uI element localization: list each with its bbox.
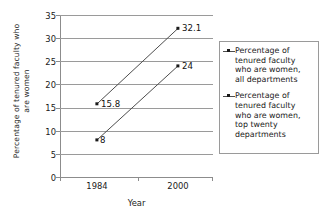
data-point-top-twenty-1984 [95,138,98,141]
legend-label-line-3: who are women, [235,65,300,75]
x-axis-title: Year [60,199,213,208]
legend-label-line-2: tenured faculty [235,101,300,111]
point-label-all-departments-2000: 32.1 [182,24,201,33]
legend-marker-icon [223,92,235,101]
point-label-top-twenty-2000: 24 [182,62,193,71]
y-tick-label-10: 10 [30,128,56,136]
x-tick-label-2000: 2000 [153,182,203,190]
legend-label-line-4: all departments [235,75,300,85]
legend-marker-icon [223,47,235,56]
legend-entry-all-departments[interactable]: Percentage of tenured faculty who are wo… [223,46,315,84]
y-tick-label-25: 25 [30,58,56,66]
legend-label-line-1: Percentage of [235,91,300,101]
y-tick-label-30: 30 [30,35,56,43]
y-axis-title-line-2: are women [22,24,32,158]
data-point-top-twenty-2000 [176,64,179,67]
legend-label-line-4: top twenty [235,120,300,130]
series-plot [60,15,213,177]
y-tick-label-5: 5 [30,151,56,159]
point-label-top-twenty-1984: 8 [100,136,105,145]
series-line-all-departments [97,28,178,104]
chart-legend: Percentage of tenured faculty who are wo… [219,41,319,154]
y-tick-label-15: 15 [30,104,56,112]
line-chart: Percentage of tenured faculty who are wo… [0,0,327,222]
legend-label-line-3: who are women, [235,111,300,121]
y-tick-label-35: 35 [30,12,56,20]
x-tick-mark-middle [138,177,139,181]
legend-label-line-2: tenured faculty [235,56,300,66]
x-axis-line [60,177,213,178]
legend-label-all-departments: Percentage of tenured faculty who are wo… [235,46,300,84]
x-tick-label-1984: 1984 [72,182,122,190]
data-point-all-departments-1984 [95,102,98,105]
x-tick-mark-left-edge [60,177,61,181]
data-point-all-departments-2000 [176,27,179,30]
y-tick-label-20: 20 [30,81,56,89]
y-axis-title-line-1: Percentage of tenured faculty who [12,24,22,158]
y-tick-label-0: 0 [30,174,56,182]
point-label-all-departments-1984: 15.8 [101,100,120,109]
legend-label-line-1: Percentage of [235,46,300,56]
legend-label-line-5: departments [235,130,300,140]
legend-label-top-twenty-departments: Percentage of tenured faculty who are wo… [235,91,300,139]
plot-area: 15.8 32.1 8 24 [60,15,213,177]
legend-entry-top-twenty-departments[interactable]: Percentage of tenured faculty who are wo… [223,91,315,139]
x-tick-mark-right-edge [212,177,213,181]
